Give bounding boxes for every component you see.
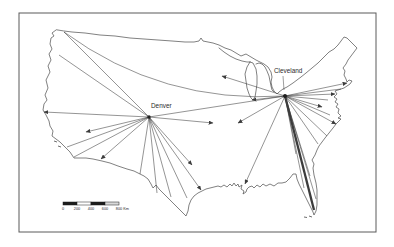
- route-line: [86, 117, 149, 132]
- scanned-map-figure: DenverCleveland 0200400600800Km: [0, 0, 394, 247]
- map-frame-layer: [19, 13, 376, 232]
- island-path: [58, 146, 61, 147]
- scalebar-label: 600: [102, 207, 108, 211]
- scalebar: 0200400600800Km: [62, 202, 129, 211]
- route-line: [64, 32, 285, 97]
- route-line: [44, 112, 149, 117]
- route-line: [59, 55, 149, 117]
- hub-label: Denver: [151, 102, 172, 109]
- hub-dot: [147, 115, 150, 118]
- hub-label: Cleveland: [274, 67, 303, 74]
- hub-dot: [283, 94, 287, 98]
- scalebar-label: 800: [116, 207, 122, 211]
- scalebar-unit-label: Km: [123, 207, 129, 211]
- us-hub-spoke-map: DenverCleveland 0200400600800Km: [0, 0, 394, 247]
- route-line: [64, 32, 149, 117]
- us-outline-path: [245, 62, 257, 100]
- route-line: [245, 96, 285, 184]
- scalebar-label: 200: [74, 207, 80, 211]
- scalebar-segment: [77, 202, 91, 205]
- route-lines-layer: [44, 32, 347, 210]
- route-line: [67, 117, 149, 147]
- route-line: [101, 117, 149, 159]
- scalebar-segment: [91, 202, 105, 205]
- route-line: [149, 117, 201, 190]
- route-line: [74, 117, 149, 157]
- route-line: [285, 96, 314, 210]
- label-leader-line: [283, 76, 284, 90]
- map-frame: [19, 13, 376, 232]
- island-path: [309, 216, 312, 217]
- us-outline-path: [219, 48, 250, 62]
- scalebar-label: 400: [88, 207, 94, 211]
- route-line: [222, 76, 285, 96]
- route-line: [140, 117, 149, 174]
- island-path: [54, 141, 57, 142]
- hub-markers-layer: DenverCleveland: [147, 67, 303, 119]
- scalebar-segment: [63, 202, 77, 205]
- island-path: [304, 217, 307, 218]
- route-line: [238, 96, 285, 123]
- route-line: [149, 117, 157, 193]
- route-line: [149, 117, 213, 123]
- scalebar-segment: [105, 202, 119, 205]
- scalebar-label: 0: [62, 207, 64, 211]
